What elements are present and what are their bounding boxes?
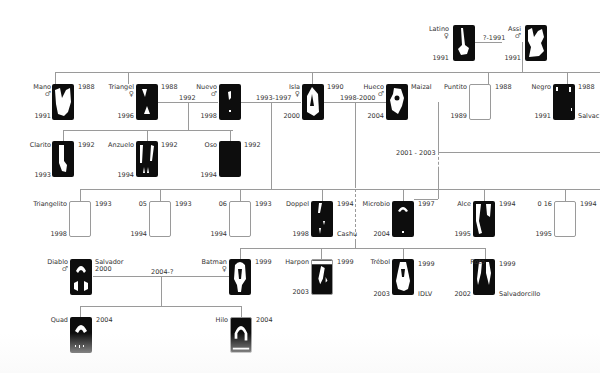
page-edge-fade (0, 333, 600, 373)
male-symbol-icon: ♂ (45, 91, 51, 98)
card-oso[interactable] (219, 141, 241, 177)
silhouette-icon (136, 141, 158, 177)
drop-05 (160, 189, 161, 201)
year-anzuelo: 1994 (117, 172, 134, 179)
silhouette-icon (52, 84, 74, 120)
card-diablo[interactable] (70, 259, 92, 295)
card-negro[interactable] (553, 84, 575, 120)
microbio-link-vertical (438, 168, 439, 199)
silhouette-icon (392, 201, 414, 237)
born-hilo: 2004 (256, 317, 273, 324)
silhouette-icon (311, 201, 333, 237)
card-clarito[interactable] (52, 141, 74, 177)
card-puntito[interactable] (469, 84, 491, 120)
born-roto: 1999 (499, 261, 516, 268)
year-roto: 2002 (454, 291, 471, 298)
card-triangel[interactable] (136, 84, 158, 120)
male-symbol-icon: ♂ (378, 91, 384, 98)
year-isla: 2000 (283, 113, 300, 120)
card-assi[interactable] (525, 25, 547, 61)
hueco-line (438, 102, 439, 152)
union-label-triangel-nuevo: 1992 (179, 95, 196, 102)
card-triangelito[interactable] (69, 201, 91, 237)
card-trebol[interactable] (392, 259, 414, 295)
name-puntito: Puntito (444, 84, 467, 91)
year-triangel: 1996 (117, 113, 134, 120)
sibling-bar-gen5 (80, 306, 242, 307)
silhouette-icon (52, 141, 74, 177)
born-05: 1993 (175, 201, 192, 208)
drop-doppel (322, 189, 323, 201)
card-isla[interactable] (302, 84, 324, 120)
born-alce: 1994 (499, 201, 516, 208)
descent-line-triangel-nuevo (188, 102, 189, 130)
card-mano[interactable] (52, 84, 74, 120)
born-harpon: 1999 (337, 259, 354, 266)
name-quad: Quad (51, 317, 68, 324)
name-roto: Roto (470, 259, 485, 266)
card-microbio[interactable] (392, 201, 414, 237)
card-alce[interactable] (473, 201, 495, 237)
card-nuevo[interactable] (219, 84, 241, 120)
name-harpon: Harpon (285, 259, 309, 266)
silhouette-icon (386, 84, 408, 120)
note-negro: Salvac (578, 113, 599, 120)
year-trebol: 2003 (373, 291, 390, 298)
silhouette-icon (473, 201, 495, 237)
card-016[interactable] (554, 201, 576, 237)
silhouette-icon (219, 84, 241, 120)
silhouette-icon (525, 25, 547, 61)
union-label-latino-assi: ?-1991 (483, 35, 505, 42)
born-mano: 1988 (78, 84, 95, 91)
note-hueco: Maizal (411, 84, 432, 91)
card-06[interactable] (229, 201, 251, 237)
descent-gen4 (355, 240, 356, 248)
card-hueco[interactable] (386, 84, 408, 120)
descent-line-diablo-batman (161, 276, 162, 306)
year-06: 1994 (210, 231, 227, 238)
name-trebol: Trébol (371, 259, 390, 266)
born-016: 1994 (580, 201, 597, 208)
born-quad: 2004 (96, 317, 113, 324)
name-05: 05 (139, 201, 147, 208)
dashed-descent-isla-hueco (355, 189, 356, 247)
drop-quad (80, 306, 81, 317)
female-symbol-icon: ♀ (444, 33, 449, 40)
name-alce: Alce (457, 201, 471, 208)
silhouette-icon (553, 84, 575, 120)
male-symbol-icon: ♂ (211, 91, 217, 98)
name-06: 06 (219, 201, 227, 208)
silhouette-icon (70, 259, 92, 295)
name-hilo: Hilo (216, 317, 228, 324)
year-puntito: 1989 (450, 113, 467, 120)
born-doppel: 1994 (337, 201, 354, 208)
union-line-hueco-other (438, 152, 600, 153)
drop-hilo (241, 306, 242, 317)
union-label-isla-hueco: 1998-2000 (340, 95, 375, 102)
note-roto: Salvadorcillo (499, 291, 540, 298)
descent-line-nuevo-isla (271, 102, 272, 190)
born-triangel: 1988 (161, 84, 178, 91)
card-anzuelo[interactable] (136, 141, 158, 177)
year-assi: 1991 (504, 55, 521, 62)
name-microbio: Microbio (363, 201, 390, 208)
card-doppel[interactable] (311, 201, 333, 237)
drop-isla (312, 72, 313, 84)
silhouette-icon (453, 25, 475, 61)
union-label-nuevo-isla: 1993-1997 (256, 95, 291, 102)
card-harpon[interactable] (311, 259, 333, 295)
card-batman[interactable] (229, 259, 251, 295)
female-symbol-icon: ♀ (129, 91, 134, 98)
name-negro: Negro (532, 84, 552, 91)
name-doppel: Doppel (286, 201, 309, 208)
card-latino[interactable] (453, 25, 475, 61)
card-05[interactable] (149, 201, 171, 237)
year-triangelito: 1998 (50, 231, 67, 238)
union-label-diablo-batman: 2004-? (151, 269, 173, 276)
sibling-bar-gen4 (240, 248, 486, 249)
year-microbio: 2004 (373, 231, 390, 238)
drop-016 (565, 189, 566, 201)
female-symbol-icon: ♀ (222, 266, 227, 273)
year-doppel: 1998 (292, 231, 309, 238)
name-clarito: Clarito (30, 142, 51, 149)
